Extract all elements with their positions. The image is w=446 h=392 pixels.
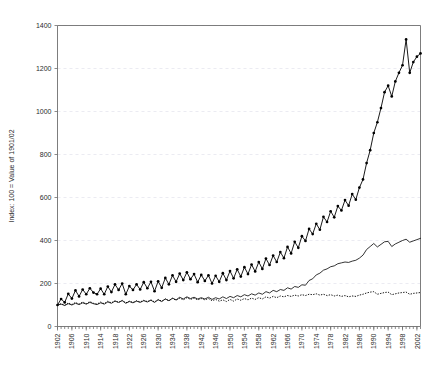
series-marker	[78, 295, 81, 298]
series-marker	[250, 263, 253, 266]
series-marker	[279, 251, 282, 254]
series-marker	[243, 266, 246, 269]
series-marker	[60, 298, 63, 301]
y-tick-label: 0	[48, 323, 52, 330]
series-marker	[326, 221, 329, 224]
series-marker	[380, 107, 383, 110]
series-marker	[333, 216, 336, 219]
series-marker	[372, 132, 375, 135]
series-marker	[189, 278, 192, 281]
series-marker	[416, 55, 419, 58]
series-marker	[376, 121, 379, 124]
x-tick-label: 1974	[313, 333, 320, 349]
series-marker	[63, 301, 66, 304]
series-marker	[275, 261, 278, 264]
series-marker	[383, 91, 386, 94]
series-marker	[204, 280, 207, 283]
x-tick-label: 1938	[183, 333, 190, 349]
series-marker	[319, 228, 322, 231]
series-marker	[96, 293, 99, 296]
series-marker	[164, 277, 167, 280]
series-marker	[301, 235, 304, 238]
x-tick-label: 1986	[356, 333, 363, 349]
series-marker	[419, 52, 422, 55]
series-marker	[351, 193, 354, 196]
series-marker	[229, 270, 232, 273]
x-tick-label: 1930	[155, 333, 162, 349]
series-marker	[121, 282, 124, 285]
series-marker	[261, 268, 264, 271]
x-axis-ticks: 1902190619101914191819221926193019341938…	[54, 327, 420, 350]
series-marker	[71, 297, 74, 300]
series-marker	[124, 293, 127, 296]
series-marker	[247, 273, 250, 276]
series-marker	[157, 280, 160, 283]
series-marker	[344, 199, 347, 202]
series-marker	[283, 257, 286, 260]
x-tick-label: 1994	[385, 333, 392, 349]
series-marker	[211, 282, 214, 285]
x-tick-label: 1970	[298, 333, 305, 349]
series-marker	[293, 240, 296, 243]
series-marker	[405, 38, 408, 41]
x-tick-label: 1990	[370, 333, 377, 349]
series-marker	[142, 281, 145, 284]
series-marker	[336, 205, 339, 208]
series-marker	[239, 275, 242, 278]
chart-container: 0200400600800100012001400 19021906191019…	[0, 0, 446, 392]
series-marker	[225, 279, 228, 282]
y-axis-label: Index: 100 = Value of 1901/02	[8, 129, 15, 222]
y-tick-label: 200	[40, 280, 52, 287]
series-marker	[232, 277, 235, 280]
plot-frame	[58, 26, 421, 327]
series-marker	[315, 222, 318, 225]
series-marker	[207, 274, 210, 277]
x-tick-label: 2002	[414, 333, 421, 349]
series-marker	[387, 84, 390, 87]
series-line-marked-series	[58, 39, 421, 305]
series-marker	[304, 240, 307, 243]
y-tick-label: 400	[40, 237, 52, 244]
series-marker	[329, 210, 332, 213]
x-tick-label: 1942	[198, 333, 205, 349]
series-marker	[412, 61, 415, 64]
x-tick-label: 1926	[140, 333, 147, 349]
series-marker	[369, 149, 372, 152]
series-line-plain-line-series	[58, 238, 421, 305]
series-marker	[308, 228, 311, 231]
series-marker	[354, 198, 357, 201]
series-marker	[214, 274, 217, 277]
series-marker	[358, 186, 361, 189]
series-marker	[92, 291, 95, 294]
x-tick-label: 1902	[54, 333, 61, 349]
plot-border	[58, 26, 421, 327]
series-marker	[175, 280, 178, 283]
series-marker	[394, 80, 397, 83]
y-tick-label: 800	[40, 151, 52, 158]
series-marker	[272, 254, 275, 257]
x-tick-label: 1954	[241, 333, 248, 349]
series-marker	[150, 280, 153, 283]
x-tick-label: 1946	[212, 333, 219, 349]
series-marker	[286, 246, 289, 249]
series-marker	[182, 279, 185, 282]
y-tick-label: 1400	[36, 22, 52, 29]
x-tick-label: 1958	[255, 333, 262, 349]
series-marker	[89, 287, 92, 290]
series-marker	[85, 293, 88, 296]
series-marker	[257, 261, 260, 264]
x-tick-label: 1950	[227, 333, 234, 349]
series-marker	[290, 252, 293, 255]
series-marker	[135, 283, 138, 286]
series-marker	[236, 268, 239, 271]
series-marker	[106, 285, 109, 288]
series-marker	[398, 71, 401, 74]
series-marker	[322, 216, 325, 219]
series-marker	[221, 272, 224, 275]
series-marker	[401, 64, 404, 67]
series-marker	[103, 293, 106, 296]
series-marker	[340, 209, 343, 212]
series-marker	[153, 290, 156, 293]
x-tick-label: 1998	[399, 333, 406, 349]
series-marker	[56, 304, 59, 307]
